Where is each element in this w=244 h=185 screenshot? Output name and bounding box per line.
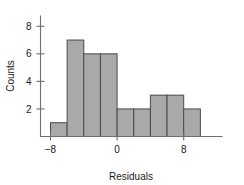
histogram-bar [117,109,134,137]
chart-background [0,0,244,185]
x-tick-label: 8 [181,144,187,155]
y-tick-label: 4 [26,76,32,87]
x-axis-title: Residuals [109,171,153,182]
histogram-bar [150,95,167,136]
x-tick-label: −8 [45,144,57,155]
histogram-bar [84,54,101,137]
x-tick-label: 0 [114,144,120,155]
histogram-bar [134,109,151,137]
y-axis-title: Counts [5,60,16,92]
histogram-bar [67,40,84,136]
y-tick-label: 8 [26,21,32,32]
histogram-figure: 2468 −808 Residuals Counts [0,0,244,185]
histogram-bar [50,123,67,137]
histogram-bar [100,54,117,137]
y-tick-label: 6 [26,48,32,59]
histogram-bar [184,109,201,137]
residuals-histogram-chart: 2468 −808 Residuals Counts [0,0,244,185]
histogram-bar [167,95,184,136]
y-tick-label: 2 [26,104,32,115]
